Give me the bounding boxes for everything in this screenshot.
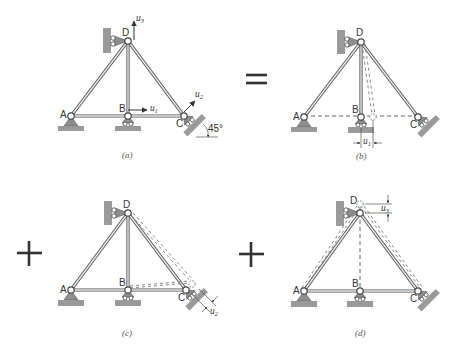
wall-support-d	[103, 28, 111, 53]
node-d	[125, 210, 131, 216]
truss-members	[71, 213, 186, 290]
truss-members	[71, 41, 184, 116]
caption-a: (a)	[122, 150, 133, 160]
node-a	[68, 287, 74, 293]
node-d	[125, 38, 131, 44]
node-b	[358, 114, 364, 120]
panel-a: 45° u3 u1 u2 A B C D (a)	[58, 13, 223, 160]
node-c-label: C	[178, 292, 185, 303]
node-b	[125, 113, 131, 119]
plus-operator	[17, 241, 42, 266]
node-d-label: D	[122, 27, 129, 38]
deformed-shape	[302, 206, 422, 290]
node-a-label: A	[293, 111, 300, 122]
deformed-shape	[130, 213, 193, 288]
u1-label: u1	[150, 103, 158, 114]
caption-d: (d)	[355, 328, 366, 338]
wall-support-d	[337, 30, 345, 54]
node-a-label: A	[60, 109, 67, 120]
wall-support-d	[104, 201, 112, 225]
node-b-label: B	[119, 277, 126, 288]
node-c-displaced	[189, 281, 195, 287]
node-c-label: C	[410, 119, 417, 130]
panel-b: u1 A B C D (b)	[291, 27, 440, 161]
u2-arrow	[184, 101, 195, 112]
node-a	[301, 114, 307, 120]
u2-label: u2	[195, 89, 204, 100]
truss-superposition-figure: 45° u3 u1 u2 A B C D (a)	[0, 0, 461, 361]
truss-members	[304, 42, 418, 117]
node-a-label: A	[293, 285, 300, 296]
node-d	[357, 210, 363, 216]
wall-support-d	[336, 201, 344, 226]
caption-b: (b)	[356, 151, 367, 161]
panel-d: u3 A B C D (d)	[291, 195, 440, 338]
node-c-label: C	[176, 118, 183, 129]
u3-label: u3	[381, 203, 390, 214]
truss-members	[304, 213, 418, 291]
node-d-label: D	[350, 195, 357, 206]
node-b	[125, 287, 131, 293]
panel-c: u2 A B C D (c)	[58, 199, 219, 338]
node-d-displaced	[357, 201, 363, 207]
node-d-label: D	[356, 27, 363, 38]
node-d-label: D	[123, 199, 130, 210]
node-d	[358, 39, 364, 45]
node-b-label: B	[352, 278, 359, 289]
u2-label: u2	[210, 306, 219, 317]
node-b-label: B	[119, 103, 126, 114]
node-c-label: C	[410, 293, 417, 304]
u3-label: u3	[136, 13, 145, 24]
node-a-label: A	[60, 284, 67, 295]
node-a	[301, 288, 307, 294]
u1-label: u1	[363, 136, 371, 147]
plus-operator	[239, 242, 264, 267]
caption-c: (c)	[122, 328, 132, 338]
node-a	[68, 113, 74, 119]
node-b-label: B	[352, 104, 359, 115]
equals-operator	[246, 75, 267, 83]
node-b-displaced	[370, 114, 376, 120]
angle-label: 45°	[208, 123, 223, 134]
